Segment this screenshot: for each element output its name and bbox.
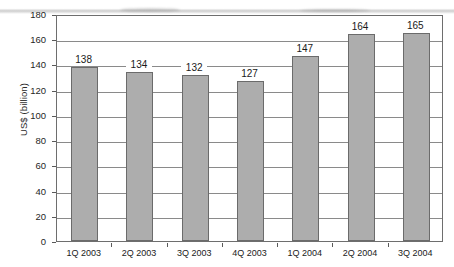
bar-value-label: 132 bbox=[174, 62, 214, 73]
x-axis-tick-label: 3Q 2004 bbox=[385, 248, 445, 258]
y-axis-tick-mark bbox=[52, 217, 56, 218]
y-axis-tick-mark bbox=[52, 242, 56, 243]
bar-chart: US$ (billion) 18016014012010080604020013… bbox=[0, 0, 454, 267]
x-axis-tick-mark bbox=[222, 243, 223, 247]
y-axis-tick-mark bbox=[52, 166, 56, 167]
y-axis-tick-mark bbox=[52, 192, 56, 193]
x-axis-tick-mark bbox=[167, 243, 168, 247]
y-axis-tick-label: 80 bbox=[16, 135, 46, 146]
scan-smudge bbox=[300, 9, 370, 12]
x-axis-tick-mark bbox=[332, 243, 333, 247]
y-axis-tick-label: 120 bbox=[16, 85, 46, 96]
bar bbox=[348, 34, 375, 241]
bar-value-label: 165 bbox=[395, 20, 435, 31]
y-axis-tick-label: 20 bbox=[16, 211, 46, 222]
y-axis-tick-label: 40 bbox=[16, 186, 46, 197]
bar bbox=[71, 67, 98, 241]
y-axis-tick-mark bbox=[52, 91, 56, 92]
bar-value-label: 164 bbox=[340, 21, 380, 32]
x-axis-tick-label: 1Q 2004 bbox=[275, 248, 335, 258]
bar-value-label: 147 bbox=[285, 43, 325, 54]
y-axis-tick-label: 160 bbox=[16, 34, 46, 45]
y-axis-tick-label: 140 bbox=[16, 59, 46, 70]
bar-value-label: 134 bbox=[119, 59, 159, 70]
bar bbox=[182, 75, 209, 241]
x-axis-tick-label: 4Q 2003 bbox=[220, 248, 280, 258]
x-axis-tick-label: 3Q 2003 bbox=[164, 248, 224, 258]
bar-value-label: 127 bbox=[230, 68, 270, 79]
x-axis-tick-mark bbox=[388, 243, 389, 247]
x-axis-tick-label: 1Q 2003 bbox=[54, 248, 114, 258]
bar bbox=[126, 72, 153, 241]
y-axis-tick-label: 0 bbox=[16, 236, 46, 247]
plot-area bbox=[56, 15, 443, 242]
bar bbox=[292, 56, 319, 241]
y-axis-tick-mark bbox=[52, 116, 56, 117]
gridline bbox=[57, 41, 442, 42]
scan-artifact-band bbox=[0, 0, 454, 14]
y-axis-tick-mark bbox=[52, 15, 56, 16]
y-axis-tick-label: 100 bbox=[16, 110, 46, 121]
x-axis-tick-mark bbox=[111, 243, 112, 247]
x-axis-tick-label: 2Q 2004 bbox=[330, 248, 390, 258]
bar-value-label: 138 bbox=[64, 54, 104, 65]
x-axis-tick-label: 2Q 2003 bbox=[109, 248, 169, 258]
y-axis-tick-mark bbox=[52, 40, 56, 41]
y-axis-tick-mark bbox=[52, 65, 56, 66]
scan-smudge bbox=[120, 8, 180, 12]
bar bbox=[237, 81, 264, 241]
y-axis-tick-label: 60 bbox=[16, 160, 46, 171]
bar bbox=[403, 33, 430, 241]
y-axis-tick-mark bbox=[52, 141, 56, 142]
x-axis-tick-mark bbox=[277, 243, 278, 247]
y-axis-tick-label: 180 bbox=[16, 9, 46, 20]
